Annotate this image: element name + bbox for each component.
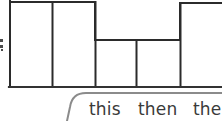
bar-face-4 bbox=[136, 40, 180, 87]
bar-face-5 bbox=[180, 3, 222, 87]
caption-word-then: then bbox=[138, 101, 177, 118]
caption-word-the: the bbox=[193, 101, 222, 118]
bar-face-2 bbox=[52, 2, 95, 87]
bar-face-1 bbox=[10, 2, 52, 87]
screenshot-canvas: this then the bbox=[0, 0, 222, 121]
bar-face-3 bbox=[95, 40, 136, 87]
bar-faces bbox=[10, 2, 222, 87]
caption-word-this: this bbox=[89, 101, 121, 118]
left-axis-label-fragment bbox=[0, 39, 3, 51]
